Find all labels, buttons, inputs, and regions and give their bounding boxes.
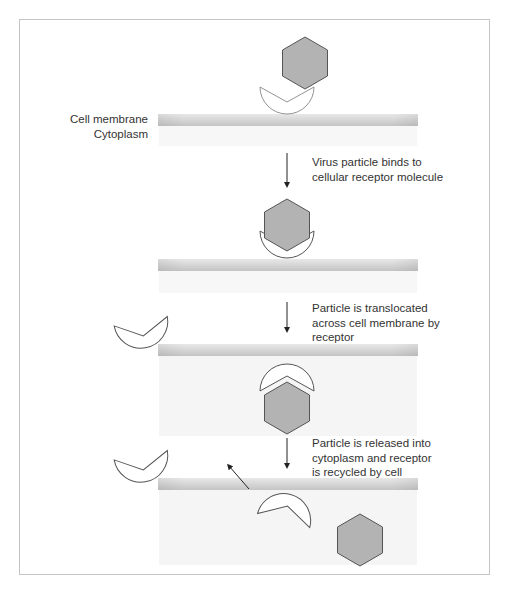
stage-1 xyxy=(158,37,418,146)
step-1-caption: Virus particle binds to cellular recepto… xyxy=(312,155,482,184)
virus-particle-icon xyxy=(283,37,328,89)
cell-membrane-label: Cell membrane xyxy=(40,112,148,127)
step-1-line-2: cellular receptor molecule xyxy=(312,170,482,185)
cytoplasm-region xyxy=(159,126,417,146)
step-3-caption: Particle is released into cytoplasm and … xyxy=(312,436,482,480)
cytoplasm-region xyxy=(159,271,417,293)
receptor-icon xyxy=(260,87,314,114)
step-3-line-1: Particle is released into xyxy=(312,436,482,451)
step-3-line-2: cytoplasm and receptor xyxy=(312,451,482,466)
receptor-mediated-entry-diagram xyxy=(0,0,511,592)
step-2-caption: Particle is translocated across cell mem… xyxy=(312,301,482,345)
step-2-line-2: across cell membrane by xyxy=(312,316,482,331)
stage-2 xyxy=(158,199,418,293)
step-2-line-1: Particle is translocated xyxy=(312,301,482,316)
step-1-line-1: Virus particle binds to xyxy=(312,155,482,170)
step-3-line-3: is recycled by cell xyxy=(312,465,482,480)
cytoplasm-label: Cytoplasm xyxy=(40,127,148,142)
step-2-line-3: receptor xyxy=(312,330,482,345)
